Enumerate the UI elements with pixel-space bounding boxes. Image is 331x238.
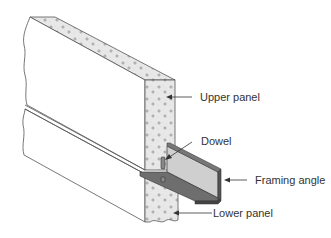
lower-panel-label: Lower panel <box>213 207 273 219</box>
framing-angle-label: Framing angle <box>255 174 325 186</box>
panel-connection-diagram <box>0 0 331 238</box>
lower-panel-arrow <box>173 211 212 216</box>
upper-panel-label: Upper panel <box>200 91 260 103</box>
dowel-label: Dowel <box>201 135 232 147</box>
framing-angle-arrow <box>224 178 247 183</box>
